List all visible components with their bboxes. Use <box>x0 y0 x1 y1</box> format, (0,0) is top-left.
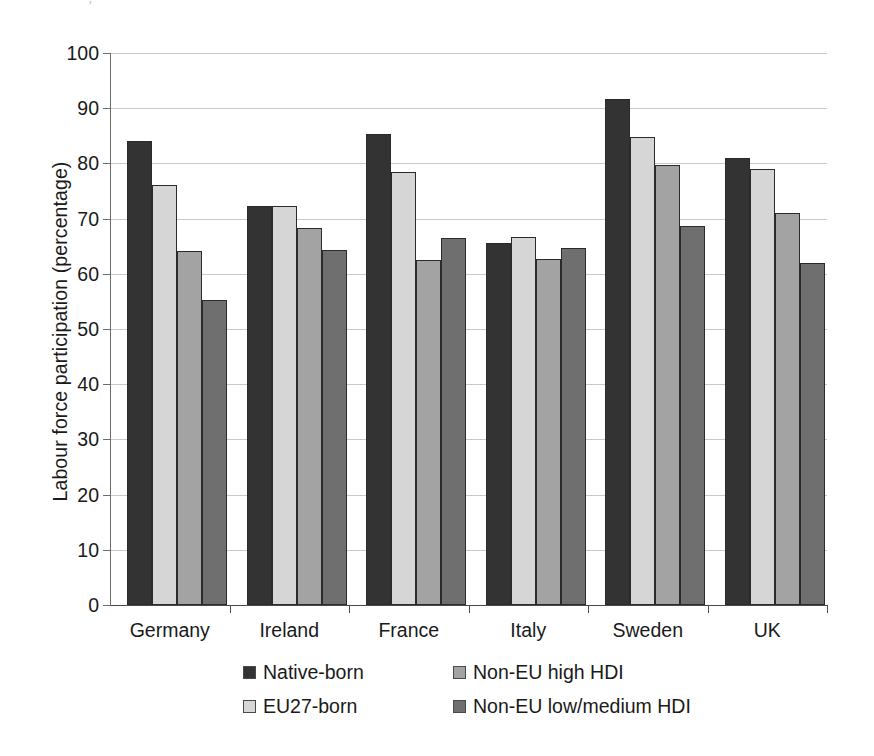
legend-item[interactable]: Non-EU low/medium HDI <box>453 696 691 716</box>
bar[interactable] <box>680 226 705 605</box>
bar[interactable] <box>152 185 177 605</box>
bar[interactable] <box>441 238 466 605</box>
bar[interactable] <box>630 137 655 605</box>
x-tick-label: UK <box>754 619 781 642</box>
x-tick-mark <box>349 605 350 613</box>
bar[interactable] <box>247 206 272 605</box>
legend-swatch-icon <box>453 666 466 679</box>
bar[interactable] <box>391 172 416 605</box>
legend-swatch-icon <box>453 700 466 713</box>
bar[interactable] <box>486 243 511 605</box>
y-tick-label: 20 <box>77 483 99 506</box>
legend-item[interactable]: EU27-born <box>243 696 453 716</box>
legend-label: Native-born <box>263 662 364 682</box>
y-axis-title: Labour force participation (percentage) <box>49 42 72 622</box>
bar[interactable] <box>605 99 630 605</box>
bar[interactable] <box>655 165 680 605</box>
bar-group <box>605 53 705 605</box>
y-tick-label: 10 <box>77 538 99 561</box>
bar[interactable] <box>725 158 750 605</box>
bar-group <box>725 53 825 605</box>
legend-label: Non-EU high HDI <box>473 662 624 682</box>
bar[interactable] <box>536 259 561 605</box>
x-tick-mark <box>708 605 709 613</box>
bar-chart: ' Labour force participation (percentage… <box>0 0 874 756</box>
x-tick-label: Germany <box>130 619 210 642</box>
y-tick-label: 50 <box>77 318 99 341</box>
bar-group <box>127 53 227 605</box>
y-tick-mark <box>103 605 111 606</box>
bar-group <box>366 53 466 605</box>
x-tick-mark <box>827 605 828 613</box>
bar-groups <box>110 53 827 605</box>
x-tick-label: Ireland <box>259 619 319 642</box>
legend-row: EU27-bornNon-EU low/medium HDI <box>243 696 763 730</box>
y-tick-label: 90 <box>77 97 99 120</box>
legend-swatch-icon <box>243 666 256 679</box>
bar[interactable] <box>800 263 825 605</box>
bar[interactable] <box>177 251 202 605</box>
y-tick-label: 100 <box>66 42 99 65</box>
y-tick-label: 30 <box>77 428 99 451</box>
legend-item[interactable]: Native-born <box>243 662 453 682</box>
bar[interactable] <box>297 228 322 605</box>
x-tick-label: France <box>378 619 439 642</box>
bar[interactable] <box>750 169 775 605</box>
x-tick-mark <box>230 605 231 613</box>
bar[interactable] <box>511 237 536 605</box>
x-tick-label: Italy <box>510 619 546 642</box>
bar-group <box>247 53 347 605</box>
legend-row: Native-bornNon-EU high HDI <box>243 662 763 696</box>
bar[interactable] <box>272 206 297 605</box>
bar[interactable] <box>127 141 152 605</box>
scan-artifact: ' <box>87 1 103 15</box>
bar[interactable] <box>322 250 347 605</box>
chart-legend: Native-bornNon-EU high HDIEU27-bornNon-E… <box>243 662 763 730</box>
bar[interactable] <box>366 134 391 605</box>
legend-item[interactable]: Non-EU high HDI <box>453 662 624 682</box>
y-tick-label: 40 <box>77 373 99 396</box>
bar-group <box>486 53 586 605</box>
x-tick-mark <box>588 605 589 613</box>
y-tick-label: 0 <box>88 594 99 617</box>
legend-label: Non-EU low/medium HDI <box>473 696 691 716</box>
legend-label: EU27-born <box>263 696 357 716</box>
bar[interactable] <box>775 213 800 605</box>
x-tick-label: Sweden <box>613 619 683 642</box>
y-tick-label: 80 <box>77 152 99 175</box>
legend-swatch-icon <box>243 700 256 713</box>
bar[interactable] <box>416 260 441 605</box>
y-tick-label: 70 <box>77 207 99 230</box>
y-tick-label: 60 <box>77 262 99 285</box>
plot-area: 0102030405060708090100 GermanyIrelandFra… <box>110 53 827 605</box>
bar[interactable] <box>202 300 227 605</box>
bar[interactable] <box>561 248 586 605</box>
x-tick-mark <box>469 605 470 613</box>
